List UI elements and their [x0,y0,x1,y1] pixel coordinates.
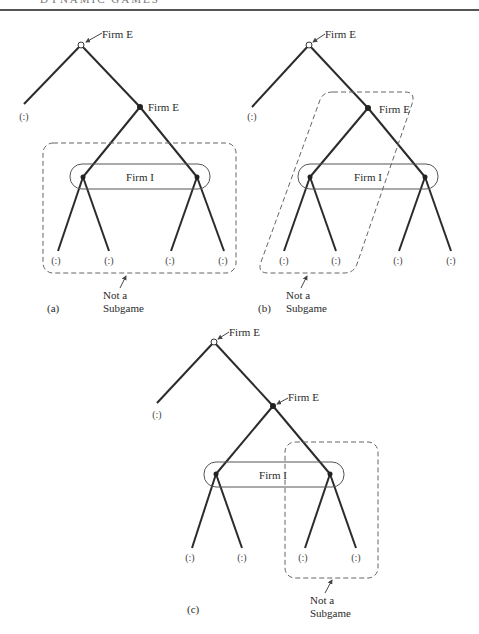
panel-a: Firm I Firm E Firm E (:) (:) (:) (:) (:)… [19,28,236,315]
panel-c: Firm I Firm E Firm E (:) (:) (:) (:) (:)… [152,326,378,619]
root-node-icon [306,42,312,48]
root-node-icon [78,42,84,48]
note-line-2: Subgame [286,302,327,314]
payoff-leaf: (:) [237,552,246,564]
note-line-1: Not a [286,289,310,301]
decision-node-icon [137,104,143,110]
payoff-leaf: (:) [218,255,227,267]
panel-caption: (a) [47,302,60,315]
note-line-2: Subgame [310,607,351,619]
game-tree-figure: Firm I Firm E Firm E (:) (:) (:) (:) (:)… [0,0,479,634]
payoff-leaf: (:) [279,255,288,267]
payoff-leaf: (:) [19,111,28,123]
payoff-leaf: (:) [185,552,194,564]
note-line-1: Not a [103,289,127,301]
root-label: Firm E [229,326,260,338]
root-node-icon [211,339,217,345]
payoff-leaf: (:) [104,255,113,267]
second-node-label: Firm E [379,103,410,115]
decision-node-icon [365,105,371,111]
payoff-leaf: (:) [298,552,307,564]
decision-node-icon [270,403,276,409]
payoff-leaf: (:) [446,255,455,267]
info-set-label: Firm I [259,469,287,481]
info-set-label: Firm I [354,171,382,183]
payoff-leaf: (:) [165,255,174,267]
payoff-leaf: (:) [331,255,340,267]
payoff-leaf: (:) [247,111,256,123]
second-node-label: Firm E [288,391,319,403]
panel-b: Firm I Firm E Firm E (:) (:) (:) (:) (:)… [247,28,455,315]
info-set-label: Firm I [126,171,154,183]
payoff-leaf: (:) [351,552,360,564]
payoff-leaf: (:) [152,409,161,421]
note-line-1: Not a [310,594,334,606]
panel-caption: (c) [187,603,200,616]
note-line-2: Subgame [103,302,144,314]
root-label: Firm E [325,28,356,40]
not-subgame-region [260,92,413,273]
root-label: Firm E [102,28,133,40]
panel-caption: (b) [258,302,271,315]
second-node-label: Firm E [148,101,179,113]
payoff-leaf: (:) [393,255,402,267]
payoff-leaf: (:) [51,255,60,267]
